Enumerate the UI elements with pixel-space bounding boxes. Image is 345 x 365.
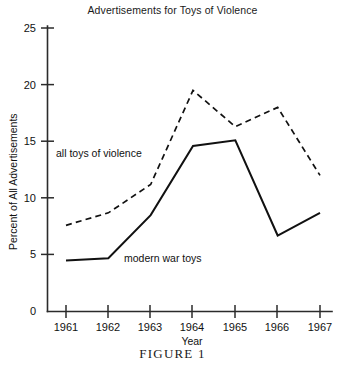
y-tick-label: 0 [30,305,36,317]
y-tick-label: 15 [24,135,36,147]
figure-container: Advertisements for Toys of Violence 25 2… [0,0,345,365]
x-axis-tick-labels: 1961 1962 1963 1964 1965 1966 1967 [54,321,332,333]
x-tick-label: 1961 [54,321,78,333]
line-chart-plot: 25 20 15 10 5 0 Percent of All Advertise… [0,0,345,345]
x-tick-label: 1967 [308,321,332,333]
x-tick-label: 1962 [96,321,120,333]
x-tick-label: 1966 [265,321,289,333]
y-tick-label: 5 [30,248,36,260]
figure-caption: FIGURE 1 [0,346,345,362]
y-tick-label: 20 [24,79,36,91]
x-tick-label: 1963 [138,321,162,333]
y-axis-tick-labels: 25 20 15 10 5 0 [24,22,36,317]
series-annotation-modern-war-toys: modern war toys [124,252,202,264]
x-axis-title: Year [181,335,203,345]
y-axis-title: Percent of All Advertisements [7,113,19,250]
x-tick-label: 1964 [180,321,204,333]
x-tick-label: 1965 [223,321,247,333]
series-annotation-all-toys-of-violence: all toys of violence [56,147,142,159]
y-tick-label: 10 [24,192,36,204]
y-tick-label: 25 [24,22,36,34]
